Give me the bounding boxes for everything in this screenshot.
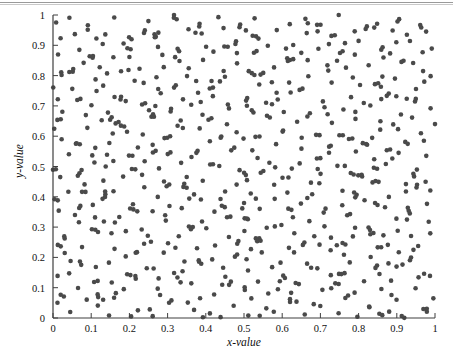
scatter-point [245, 216, 250, 221]
scatter-point [405, 217, 410, 222]
scatter-point [305, 261, 310, 266]
scatter-point [123, 99, 128, 104]
scatter-point [305, 58, 310, 63]
scatter-point [140, 173, 145, 178]
scatter-point [280, 129, 285, 134]
scatter-point [77, 171, 82, 176]
scatter-point [95, 292, 100, 297]
scatter-point [329, 34, 334, 39]
scatter-point [80, 190, 85, 195]
scatter-point [395, 19, 400, 24]
y-axis-tick-label: 0.2 [0, 252, 45, 263]
scatter-point [264, 306, 269, 311]
scatter-point [55, 198, 60, 203]
scatter-point [421, 307, 426, 312]
scatter-point [356, 173, 361, 178]
scatter-point [125, 129, 130, 134]
scatter-point [68, 310, 73, 315]
scatter-point [180, 269, 185, 274]
scatter-point [113, 220, 118, 225]
scatter-point [136, 308, 141, 313]
scatter-point [264, 226, 269, 231]
scatter-point [270, 102, 275, 107]
scatter-point [199, 197, 204, 202]
scatter-point [243, 288, 248, 293]
scatter-point [189, 155, 194, 160]
scatter-point [142, 159, 147, 164]
scatter-point [339, 272, 344, 277]
scatter-point [394, 216, 399, 221]
scatter-point [375, 166, 380, 171]
scatter-point [428, 74, 433, 79]
scatter-point [110, 131, 115, 136]
scatter-point [309, 265, 314, 270]
scatter-point [174, 17, 179, 22]
scatter-point [299, 201, 304, 206]
scatter-point [309, 180, 314, 185]
scatter-point [182, 259, 187, 264]
scatter-point [168, 150, 173, 155]
scatter-point [352, 290, 357, 295]
scatter-point [129, 37, 134, 42]
scatter-point [340, 49, 345, 54]
scatter-point [136, 145, 141, 150]
scatter-point [411, 171, 416, 176]
scatter-point [303, 17, 308, 22]
scatter-point [208, 311, 213, 316]
scatter-point [221, 26, 226, 31]
scatter-point [58, 175, 63, 180]
scatter-point [289, 291, 294, 296]
scatter-point [84, 297, 89, 302]
scatter-point [422, 271, 427, 276]
scatter-point [254, 196, 259, 201]
y-axis-tick-label: 0.3 [0, 222, 45, 233]
scatter-point [302, 312, 307, 317]
scatter-point [130, 153, 135, 158]
scatter-point [77, 142, 82, 147]
scatter-point [410, 115, 415, 120]
scatter-point [408, 39, 413, 44]
y-axis-tick-label: 0.7 [0, 100, 45, 111]
scatter-point [352, 29, 357, 34]
scatter-point [91, 203, 96, 208]
scatter-point [222, 44, 227, 49]
scatter-point [258, 238, 263, 243]
scatter-point [318, 156, 323, 161]
scatter-point [399, 112, 404, 117]
scatter-point [257, 82, 262, 87]
scatter-point [361, 101, 366, 106]
scatter-point [396, 151, 401, 156]
scatter-point [399, 60, 404, 65]
scatter-point [358, 83, 363, 88]
scatter-point [117, 215, 122, 220]
scatter-point [223, 189, 228, 194]
scatter-point [209, 116, 214, 121]
x-axis-tick-label: 0.6 [276, 323, 289, 334]
scatter-point [266, 291, 271, 296]
scatter-point [393, 76, 398, 81]
scatter-point [81, 61, 86, 66]
scatter-point [235, 252, 240, 257]
scatter-point [105, 152, 110, 157]
scatter-point [280, 176, 285, 181]
x-axis-tick-label: 0.3 [161, 323, 174, 334]
scatter-point [306, 74, 311, 79]
scatter-point [422, 139, 427, 144]
scatter-point [227, 283, 232, 288]
scatter-point [287, 22, 292, 27]
scatter-point [250, 33, 255, 38]
scatter-point [386, 261, 391, 266]
scatter-point [150, 209, 155, 214]
scatter-point [347, 260, 352, 265]
scatter-point [267, 160, 272, 165]
scatter-point [276, 287, 281, 292]
scatter-point [200, 178, 205, 183]
scatter-point [394, 94, 399, 99]
scatter-point [307, 219, 312, 224]
scatter-point [273, 224, 278, 229]
scatter-point [132, 78, 137, 83]
x-axis-label: x-value [53, 336, 435, 348]
scatter-point [381, 55, 386, 60]
scatter-point [428, 274, 433, 279]
scatter-point [182, 182, 187, 187]
